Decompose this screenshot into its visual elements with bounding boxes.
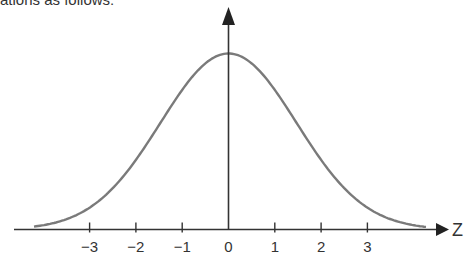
bell-curve-chart: −3−2−10123 Z	[0, 0, 469, 262]
x-tick-label: −2	[127, 238, 144, 255]
x-axis-arrow-icon	[436, 223, 449, 236]
x-tick-label: 0	[224, 238, 232, 255]
x-axis-ticks: −3−2−10123	[81, 223, 372, 256]
x-tick-label: 3	[363, 238, 371, 255]
y-axis-arrow-icon	[222, 7, 235, 25]
normal-curve	[34, 54, 426, 227]
x-axis-label: Z	[452, 220, 463, 240]
x-tick-label: −1	[174, 238, 191, 255]
x-tick-label: −3	[81, 238, 98, 255]
x-tick-label: 1	[271, 238, 279, 255]
x-tick-label: 2	[317, 238, 325, 255]
normal-curve-path	[34, 54, 426, 227]
